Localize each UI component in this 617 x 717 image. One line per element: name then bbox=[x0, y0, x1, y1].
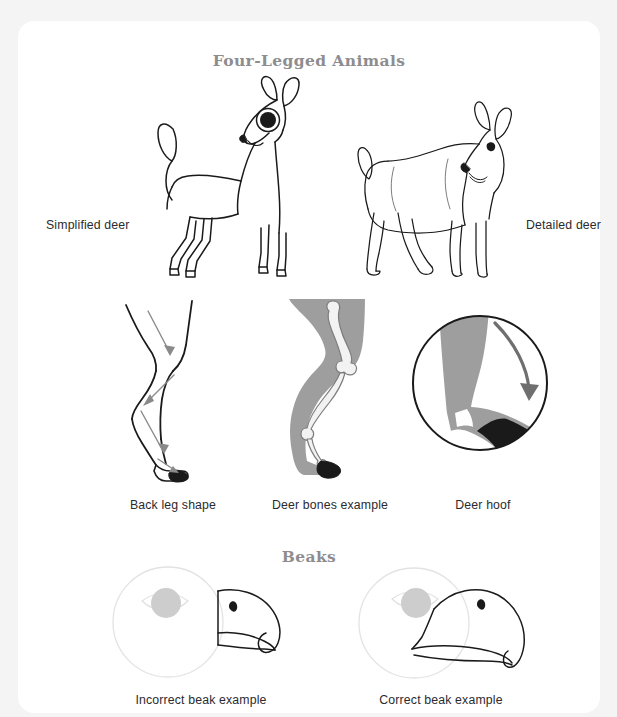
reference-sheet-card: Four-Legged Animals bbox=[18, 21, 600, 713]
section-heading-four-legged-animals: Four-Legged Animals bbox=[18, 51, 600, 70]
caption-incorrect-beak: Incorrect beak example bbox=[108, 693, 294, 707]
eye-iris bbox=[151, 588, 181, 618]
caption-deer-hoof: Deer hoof bbox=[393, 498, 573, 512]
deer-hoof-closeup-illustration bbox=[411, 309, 553, 459]
caption-simplified-deer: Simplified deer bbox=[46, 218, 130, 232]
deer-back-leg-illustration bbox=[118, 293, 248, 483]
figure-detailed-deer bbox=[336, 97, 532, 277]
detailed-deer-illustration bbox=[336, 97, 532, 277]
correct-beak-illustration bbox=[356, 563, 551, 681]
hoof-wall-black bbox=[477, 419, 549, 460]
nostril bbox=[229, 601, 237, 611]
leg-silhouette-gray bbox=[289, 299, 365, 475]
caption-back-leg-shape: Back leg shape bbox=[83, 498, 263, 512]
figure-deer-bones bbox=[261, 289, 395, 483]
nostril bbox=[477, 599, 485, 609]
eye-iris bbox=[401, 588, 431, 618]
hoof-black bbox=[317, 461, 341, 478]
incorrect-beak-illustration bbox=[112, 563, 297, 681]
figure-back-leg-shape bbox=[118, 293, 248, 483]
head-circle-guide bbox=[113, 567, 223, 677]
caption-correct-beak: Correct beak example bbox=[348, 693, 534, 707]
figure-deer-hoof bbox=[411, 309, 553, 459]
head-circle-guide bbox=[359, 568, 469, 678]
simplified-deer-illustration bbox=[128, 73, 328, 278]
deer-leg-bones-illustration bbox=[261, 289, 395, 483]
figure-simplified-deer bbox=[128, 73, 328, 278]
figure-incorrect-beak bbox=[112, 563, 297, 681]
direction-arrow-upper bbox=[148, 311, 175, 356]
figure-correct-beak bbox=[356, 563, 551, 681]
caption-detailed-deer: Detailed deer bbox=[526, 218, 601, 232]
